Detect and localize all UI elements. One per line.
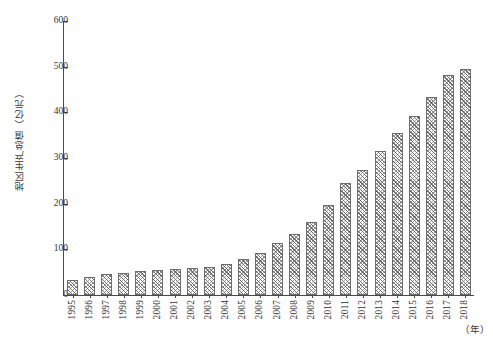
bar-2013[interactable] bbox=[375, 151, 386, 295]
x-tick-mark bbox=[73, 295, 74, 298]
x-tick-label-2011: 2011 bbox=[341, 300, 350, 319]
y-tick-label-wrap: 300 bbox=[22, 153, 68, 154]
x-tick-label-2014: 2014 bbox=[392, 300, 401, 319]
x-tick-mark bbox=[295, 295, 296, 298]
x-tick-label-2003: 2003 bbox=[204, 300, 213, 319]
x-tick-label-2001: 2001 bbox=[170, 300, 179, 319]
bar-2016[interactable] bbox=[426, 97, 437, 295]
bar-chart: 地区生产总值（亿元） 0100200300400500600 199519961… bbox=[0, 0, 493, 346]
x-tick-label-2010: 2010 bbox=[324, 300, 333, 319]
x-tick-label-2016: 2016 bbox=[426, 300, 435, 319]
x-tick-label-1998: 1998 bbox=[119, 300, 128, 319]
x-axis-unit-label: （年） bbox=[460, 325, 490, 335]
y-tick-label-wrap: 0 bbox=[22, 290, 68, 291]
x-tick-mark bbox=[431, 295, 432, 298]
plot-area bbox=[64, 21, 474, 295]
y-tick-label: 600 bbox=[34, 16, 68, 26]
x-tick-label-1999: 1999 bbox=[136, 300, 145, 319]
bar-1996[interactable] bbox=[84, 277, 95, 295]
x-tick-mark bbox=[448, 295, 449, 298]
x-tick-mark bbox=[397, 295, 398, 298]
x-tick-label-2018: 2018 bbox=[460, 300, 469, 319]
x-tick-mark bbox=[209, 295, 210, 298]
bar-2012[interactable] bbox=[357, 170, 368, 295]
x-tick-label-2007: 2007 bbox=[273, 300, 282, 319]
bar-1995[interactable] bbox=[67, 280, 78, 295]
x-tick-mark bbox=[346, 295, 347, 298]
x-tick-label-2006: 2006 bbox=[255, 300, 264, 319]
x-tick-mark bbox=[363, 295, 364, 298]
x-tick-mark bbox=[414, 295, 415, 298]
bar-2005[interactable] bbox=[238, 259, 249, 295]
x-tick-mark bbox=[175, 295, 176, 298]
x-tick-label-2002: 2002 bbox=[187, 300, 196, 319]
y-tick-label: 300 bbox=[34, 153, 68, 163]
x-tick-label-2004: 2004 bbox=[221, 300, 230, 319]
y-tick-label-wrap: 600 bbox=[22, 16, 68, 17]
y-tick-label-wrap: 200 bbox=[22, 199, 68, 200]
x-tick-mark bbox=[192, 295, 193, 298]
x-tick-mark bbox=[243, 295, 244, 298]
x-tick-label-2013: 2013 bbox=[375, 300, 384, 319]
x-tick-label-2008: 2008 bbox=[290, 300, 299, 319]
bar-2010[interactable] bbox=[323, 205, 334, 295]
x-tick-mark bbox=[124, 295, 125, 298]
y-tick-label: 0 bbox=[34, 290, 68, 300]
y-tick-label: 200 bbox=[34, 199, 68, 209]
x-tick-mark bbox=[312, 295, 313, 298]
bar-2018[interactable] bbox=[460, 69, 471, 295]
bar-1999[interactable] bbox=[135, 271, 146, 295]
bar-2017[interactable] bbox=[443, 75, 454, 295]
x-tick-mark bbox=[465, 295, 466, 298]
y-tick-label-wrap: 100 bbox=[22, 244, 68, 245]
x-tick-label-2015: 2015 bbox=[409, 300, 418, 319]
bar-2002[interactable] bbox=[187, 268, 198, 295]
x-tick-mark bbox=[90, 295, 91, 298]
y-tick-label: 500 bbox=[34, 62, 68, 72]
x-tick-label-2005: 2005 bbox=[238, 300, 247, 319]
x-tick-mark bbox=[329, 295, 330, 298]
x-tick-label-2000: 2000 bbox=[153, 300, 162, 319]
bar-2001[interactable] bbox=[170, 269, 181, 295]
bar-1997[interactable] bbox=[101, 274, 112, 295]
bar-2004[interactable] bbox=[221, 264, 232, 295]
bar-2008[interactable] bbox=[289, 234, 300, 295]
x-tick-mark bbox=[226, 295, 227, 298]
x-tick-label-2012: 2012 bbox=[358, 300, 367, 319]
bar-2007[interactable] bbox=[272, 243, 283, 295]
x-tick-mark bbox=[380, 295, 381, 298]
x-tick-label-2009: 2009 bbox=[307, 300, 316, 319]
x-tick-mark bbox=[278, 295, 279, 298]
y-tick-label-wrap: 400 bbox=[22, 107, 68, 108]
bar-1998[interactable] bbox=[118, 273, 129, 295]
y-tick-label: 400 bbox=[34, 107, 68, 117]
x-tick-label-1997: 1997 bbox=[102, 300, 111, 319]
x-tick-mark bbox=[158, 295, 159, 298]
bar-2009[interactable] bbox=[306, 222, 317, 295]
bar-2011[interactable] bbox=[340, 183, 351, 295]
y-tick-label-wrap: 500 bbox=[22, 62, 68, 63]
x-tick-label-2017: 2017 bbox=[443, 300, 452, 319]
x-tick-label-1995: 1995 bbox=[68, 300, 77, 319]
x-tick-mark bbox=[141, 295, 142, 298]
y-tick-label: 100 bbox=[34, 244, 68, 254]
x-tick-mark bbox=[107, 295, 108, 298]
bar-2006[interactable] bbox=[255, 253, 266, 295]
bar-2003[interactable] bbox=[204, 267, 215, 295]
bar-2015[interactable] bbox=[409, 116, 420, 295]
bar-2014[interactable] bbox=[392, 133, 403, 295]
x-tick-mark bbox=[260, 295, 261, 298]
y-axis-label: 地区生产总值（亿元） bbox=[14, 88, 30, 191]
x-tick-label-1996: 1996 bbox=[85, 300, 94, 319]
bar-2000[interactable] bbox=[152, 270, 163, 295]
